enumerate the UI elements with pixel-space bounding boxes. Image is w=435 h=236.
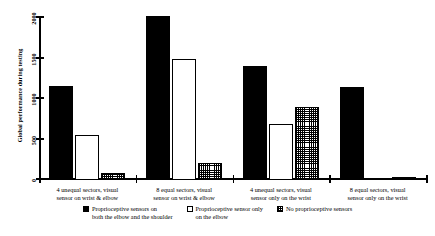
legend-item[interactable]: Proprioceptive sensor only on the elbow [187,205,264,221]
x-tick [233,175,235,183]
y-tick-label: 2000 [30,6,37,32]
x-tick [426,175,428,183]
y-tick-label: 1000 [30,87,37,113]
bar [243,66,267,180]
bar-chart: Global performance during testing 050010… [0,0,435,236]
y-axis-title: Global performance during testing [16,21,23,171]
y-tick: 1000 [36,97,44,99]
bar [75,135,99,180]
y-tick: 2000 [36,16,44,18]
x-tick [136,175,138,183]
x-group-label: 4 unequal sectors, visual sensor on wris… [39,186,136,202]
legend-label: No proprioceptive sensors [286,205,352,213]
legend-item[interactable]: Proprioceptive sensors on both the elbow… [83,205,173,221]
y-axis-line [39,18,41,180]
bar [295,107,319,180]
y-tick-label: 500 [30,127,37,153]
bar [198,163,222,180]
legend-item[interactable]: No proprioceptive sensors [277,205,352,213]
x-group-label: 8 equal sectors, visual sensor only on t… [329,186,426,202]
bar [269,124,293,180]
legend-swatch-icon [187,206,193,212]
legend-swatch-icon [277,206,283,212]
legend-label: Proprioceptive sensors on both the elbow… [92,205,173,221]
legend-swatch-icon [83,206,89,212]
y-tick-label: 0 [30,168,37,194]
x-tick [329,175,331,183]
bar [340,87,364,180]
legend-label: Proprioceptive sensor only on the elbow [196,205,264,221]
bar [392,177,416,180]
chart-legend: Proprioceptive sensors on both the elbow… [0,205,435,221]
bar [49,86,73,180]
plot-area: 0500100015002000 [39,18,426,180]
y-tick: 1500 [36,57,44,59]
y-tick-label: 1500 [30,46,37,72]
bar [172,59,196,181]
y-tick: 500 [36,138,44,140]
x-group-label: 8 equal sectors, visual sensor on wrist … [136,186,233,202]
x-group-label: 4 unequal sectors, visual sensor only on… [233,186,330,202]
bar [146,16,170,180]
bar [101,173,125,180]
x-tick [39,175,41,183]
